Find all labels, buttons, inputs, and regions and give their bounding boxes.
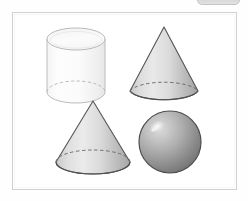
- figure-panel: [12, 12, 237, 190]
- window-tab-pill[interactable]: [197, 0, 240, 5]
- cone-wide-surface: [56, 101, 130, 174]
- solid-cone-wide: [51, 97, 135, 181]
- solid-sphere: [137, 109, 203, 175]
- sphere-body: [139, 111, 201, 173]
- screenshot-root: [0, 0, 248, 201]
- cone-tall-surface: [130, 27, 198, 100]
- solid-cone-tall: [125, 24, 203, 109]
